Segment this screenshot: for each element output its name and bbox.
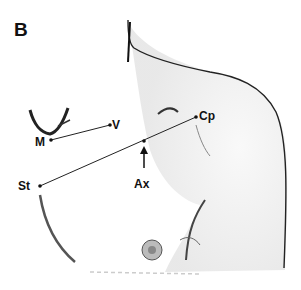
label-cp: Cp [199,110,215,122]
anatomical-figure: B M V Cp Ax St [0,0,301,290]
shoulder-drawing [30,20,287,274]
illustration [0,0,301,290]
label-st: St [18,180,30,192]
label-v: V [112,119,120,131]
label-ax: Ax [134,178,149,190]
panel-label: B [14,20,28,39]
label-m: M [35,136,45,148]
